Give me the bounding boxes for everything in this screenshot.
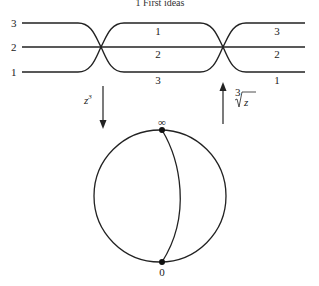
middle-label-bottom: 3 <box>155 74 161 86</box>
cube-root-label: 3 z <box>235 86 256 108</box>
branch-cut-meridian <box>162 130 180 262</box>
zero-point <box>159 259 165 265</box>
middle-label-middle: 2 <box>155 48 161 60</box>
page-header: 1 First ideas <box>136 0 185 8</box>
zero-label: 0 <box>159 266 165 278</box>
arrow-down-icon <box>100 120 107 129</box>
cube-map-label: z3 <box>83 93 92 106</box>
sphere-outline <box>94 130 226 262</box>
middle-label-top: 1 <box>155 25 161 37</box>
left-label-bottom: 1 <box>11 66 17 78</box>
riemann-surface-figure: 1 First ideas 3 2 1 1 2 3 3 2 1 z3 3 z <box>0 0 319 286</box>
left-label-middle: 2 <box>11 41 17 53</box>
right-label-middle: 2 <box>274 48 280 60</box>
svg-text:3: 3 <box>235 86 241 98</box>
right-label-top: 3 <box>274 25 280 37</box>
sheet-lines <box>22 23 305 72</box>
cube-map-arrow: z3 <box>83 86 107 129</box>
right-label-bottom: 1 <box>274 74 280 86</box>
riemann-sphere: ∞ 0 <box>94 116 226 278</box>
infinity-label: ∞ <box>158 116 166 128</box>
left-label-top: 3 <box>11 17 17 29</box>
svg-text:z: z <box>243 96 249 108</box>
cube-root-arrow: 3 z <box>220 82 257 124</box>
arrow-up-icon <box>220 82 227 91</box>
